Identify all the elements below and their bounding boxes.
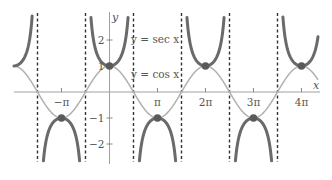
y-axis-label: y	[111, 11, 119, 24]
intersection-point	[202, 62, 210, 70]
cos-label: y = cos x	[130, 68, 179, 80]
x-axis-label: x	[313, 79, 320, 92]
x-tick-label: 4π	[295, 96, 309, 108]
intersection-point	[250, 114, 258, 122]
sec-curve-branch	[187, 17, 224, 66]
y-tick-label: 1	[98, 60, 105, 72]
y-tick-label: −1	[89, 112, 104, 124]
x-tick-label: 2π	[199, 96, 213, 108]
sec-curve-branch	[139, 118, 175, 161]
intersection-point	[154, 114, 162, 122]
x-tick-label: π	[154, 96, 161, 108]
sec-curve-branch	[43, 118, 79, 161]
y-tick-label: −2	[89, 138, 104, 150]
intersection-point	[58, 114, 66, 122]
sec-curve-branch	[14, 16, 32, 66]
sec-label: y = sec x	[130, 33, 179, 45]
intersection-point	[106, 62, 114, 70]
secant-cosine-chart: −ππ2π3π4π21−1−2 y = sec x y = cos x x y	[0, 0, 332, 180]
sec-curve-branch	[283, 17, 318, 66]
sec-curve-branch	[235, 118, 271, 161]
x-tick-label: −π	[54, 96, 70, 108]
x-tick-label: 3π	[247, 96, 261, 108]
y-tick-label: 2	[98, 34, 105, 46]
intersection-point	[298, 62, 306, 70]
